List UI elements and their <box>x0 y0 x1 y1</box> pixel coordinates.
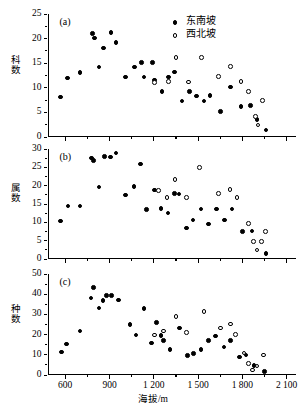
panel-c-x-tick-mark <box>109 375 110 379</box>
panel-a-y-minor-tick <box>45 26 47 27</box>
data-point-se <box>218 109 223 114</box>
data-point-nw <box>152 80 157 85</box>
panel-b-y-tick-mark <box>44 222 48 223</box>
data-point-se <box>248 103 253 108</box>
panel-c-y-minor-tick <box>45 284 47 285</box>
data-point-nw <box>216 191 221 196</box>
panel-a-y-minor-tick <box>45 75 47 76</box>
data-point-se <box>185 353 190 358</box>
panel-a-label: (a) <box>60 17 71 27</box>
panel-c-y-tick-label: 30 <box>12 309 42 319</box>
panel-c-plot-area <box>48 274 296 375</box>
data-point-nw <box>246 221 251 226</box>
data-point-nw <box>253 114 258 119</box>
panel-b-y-tick-label: 30 <box>12 144 42 154</box>
panel-b-x-minor-tick <box>220 259 221 261</box>
panel-a-y-minor-tick <box>45 100 47 101</box>
panel-b-x-minor-tick <box>87 259 88 261</box>
panel-a-y-minor-tick <box>45 50 47 51</box>
panel-c-x-tick-mark <box>242 375 243 379</box>
data-point-se <box>160 89 165 94</box>
data-point-nw <box>165 195 170 200</box>
data-point-se <box>104 293 109 298</box>
data-point-nw <box>152 333 157 338</box>
panel-c-x-minor-tick <box>220 375 221 377</box>
data-point-se <box>206 222 211 227</box>
panel-a-y-tick-mark <box>44 63 48 64</box>
data-point-se <box>228 338 233 343</box>
x-tick-label: 900 <box>88 381 132 391</box>
panel-b-x-tick-mark <box>242 259 243 263</box>
data-point-nw <box>174 55 179 60</box>
panel-b: (b) 属数 051015202530 <box>0 140 306 265</box>
data-point-se <box>154 320 159 325</box>
panel-c-y-minor-tick <box>45 304 47 305</box>
x-tick-label: 600 <box>43 381 87 391</box>
data-point-nw <box>228 187 233 192</box>
panel-b-y-minor-tick <box>45 158 47 159</box>
panel-b-x-minor-tick <box>131 259 132 261</box>
panel-c-y-tick-label: 50 <box>12 269 42 279</box>
panel-c-y-minor-tick <box>45 324 47 325</box>
panel-a: (a) 科数 东南坡 西北坡 0510152025 <box>0 0 306 140</box>
data-point-nw <box>184 330 189 335</box>
data-point-nw <box>228 64 233 69</box>
panel-b-y-tick-mark <box>44 149 48 150</box>
panel-b-y-tick-mark <box>44 259 48 260</box>
x-tick-label: 1 500 <box>176 381 220 391</box>
data-point-se <box>132 184 137 189</box>
panel-b-y-tick-mark <box>44 167 48 168</box>
data-point-nw <box>233 332 238 337</box>
data-point-nw <box>246 89 251 94</box>
data-point-se <box>142 306 147 311</box>
data-point-nw <box>174 314 179 319</box>
data-point-se <box>237 355 242 360</box>
panel-b-y-tick-label: 10 <box>12 217 42 227</box>
panel-a-y-minor-tick <box>45 124 47 125</box>
panel-a-x-minor-tick <box>131 137 132 139</box>
data-point-se <box>78 70 83 75</box>
data-point-nw <box>186 80 191 85</box>
panel-c-y-tick-mark <box>44 294 48 295</box>
panel-c-y-tick-mark <box>44 354 48 355</box>
data-point-nw <box>197 165 202 170</box>
panel-b-y-minor-tick <box>45 194 47 195</box>
panel-b-y-tick-label: 15 <box>12 199 42 209</box>
data-point-se <box>109 293 114 298</box>
data-point-nw <box>218 326 223 331</box>
data-point-nw <box>246 361 251 366</box>
panel-c-y-tick-mark <box>44 274 48 275</box>
panel-a-x-minor-tick <box>264 137 265 139</box>
panel-a-y-tick-mark <box>44 112 48 113</box>
panel-a-y-tick-mark <box>44 38 48 39</box>
x-tick-label: 1 200 <box>132 381 176 391</box>
panel-a-y-tick-label: 10 <box>12 83 42 93</box>
panel-a-x-minor-tick <box>175 137 176 139</box>
data-point-nw <box>156 188 161 193</box>
panel-b-y-tick-mark <box>44 240 48 241</box>
legend-label-nw: 西北坡 <box>186 29 216 39</box>
data-point-nw <box>250 368 255 373</box>
panel-b-x-tick-mark <box>109 259 110 263</box>
panel-c-label: (c) <box>60 277 71 287</box>
panel-c-y-tick-label: 0 <box>12 370 42 380</box>
panel-b-y-minor-tick <box>45 231 47 232</box>
panel-a-y-tick-label: 25 <box>12 9 42 19</box>
panel-b-y-tick-label: 25 <box>12 162 42 172</box>
data-point-se <box>91 158 96 163</box>
panel-c-y-tick-mark <box>44 334 48 335</box>
panel-c-y-minor-tick <box>45 344 47 345</box>
data-point-se <box>262 369 267 374</box>
panel-a-y-tick-label: 20 <box>12 34 42 44</box>
panel-c-y-tick-mark <box>44 314 48 315</box>
panel-b-y-minor-tick <box>45 176 47 177</box>
panel-c-y-tick-label: 20 <box>12 330 42 340</box>
panel-b-x-tick-mark <box>65 259 66 263</box>
data-point-se <box>101 46 106 51</box>
data-point-se <box>138 162 143 167</box>
data-point-nw <box>259 239 264 244</box>
data-point-se <box>139 60 144 65</box>
filled-circle-icon <box>173 20 178 25</box>
panel-b-y-tick-label: 0 <box>12 254 42 264</box>
panel-b-y-tick-mark <box>44 185 48 186</box>
